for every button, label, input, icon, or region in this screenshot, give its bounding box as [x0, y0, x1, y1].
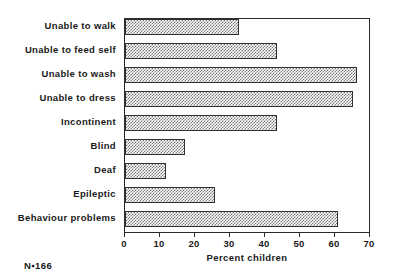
plot-area [124, 18, 370, 233]
x-tick-label: 60 [319, 238, 349, 249]
x-tick-label: 40 [249, 238, 279, 249]
category-label-behaviour-problems: Behaviour problems [0, 213, 116, 223]
bar-unable-to-walk [125, 19, 239, 35]
bar-deaf [125, 163, 166, 179]
x-tick-mark [369, 233, 370, 237]
x-tick-mark [159, 233, 160, 237]
category-label-unable-to-walk: Unable to walk [0, 21, 116, 31]
x-tick-mark [299, 233, 300, 237]
category-label-incontinent: Incontinent [0, 117, 116, 127]
bar-behaviour-problems [125, 211, 338, 227]
category-label-deaf: Deaf [0, 165, 116, 175]
x-tick-label: 20 [179, 238, 209, 249]
x-tick-label: 0 [109, 238, 139, 249]
category-label-unable-to-dress: Unable to dress [0, 93, 116, 103]
bar-incontinent [125, 115, 277, 131]
x-tick-mark [264, 233, 265, 237]
category-label-unable-to-feed-self: Unable to feed self [0, 45, 116, 55]
x-tick-mark [194, 233, 195, 237]
x-axis-title: Percent children [124, 252, 370, 263]
x-tick-label: 30 [214, 238, 244, 249]
category-label-blind: Blind [0, 141, 116, 151]
bar-unable-to-feed-self [125, 43, 277, 59]
x-tick-mark [124, 233, 125, 237]
bar-blind [125, 139, 185, 155]
bar-epileptic [125, 187, 215, 203]
category-label-unable-to-wash: Unable to wash [0, 69, 116, 79]
bar-unable-to-dress [125, 91, 353, 107]
bar-chart: Unable to walk Unable to feed self Unabl… [0, 0, 396, 277]
x-tick-label: 10 [144, 238, 174, 249]
x-tick-mark [334, 233, 335, 237]
sample-size-note: N▪166 [24, 260, 52, 271]
category-label-epileptic: Epileptic [0, 189, 116, 199]
x-tick-mark [229, 233, 230, 237]
x-tick-label: 50 [284, 238, 314, 249]
x-tick-label: 70 [354, 238, 384, 249]
bar-unable-to-wash [125, 67, 357, 83]
